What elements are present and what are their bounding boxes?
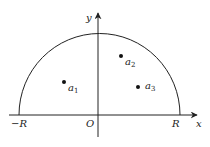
label-a2: a2 — [125, 56, 135, 69]
pos-radius-label: R — [171, 118, 180, 129]
label-a1: a1 — [68, 82, 78, 95]
point-a1 — [62, 80, 66, 84]
semicircle-diagram: a1 a2 a3 y x O −R R — [0, 0, 210, 147]
label-a3: a3 — [145, 80, 155, 93]
point-a3 — [136, 85, 140, 89]
y-axis-label: y — [85, 12, 92, 23]
neg-radius-label: −R — [11, 118, 27, 129]
semicircle-arc — [19, 33, 180, 115]
origin-label: O — [86, 118, 94, 129]
point-a2 — [119, 54, 123, 58]
x-axis-label: x — [196, 118, 202, 129]
